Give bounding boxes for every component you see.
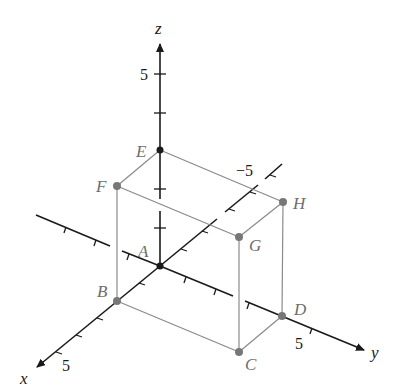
edge-HD xyxy=(282,202,283,316)
edge-CD xyxy=(239,316,282,352)
negative-x-axis: −5 xyxy=(160,162,282,266)
diagram-canvas: −5 5 z 5 y xyxy=(0,0,394,390)
edge-FG xyxy=(117,186,239,237)
point-H xyxy=(279,198,287,206)
edge-GH xyxy=(239,202,283,237)
coordinate-box-diagram: −5 5 z 5 y xyxy=(0,0,394,390)
y-axis: 5 y xyxy=(160,266,379,362)
edge-BC xyxy=(117,301,239,352)
neg-tick-label-minus-5: −5 xyxy=(236,162,253,179)
x-axis-label: x xyxy=(19,369,28,388)
x-tick-label-5: 5 xyxy=(62,357,70,374)
y-tick-label-5: 5 xyxy=(295,335,303,352)
label-G: G xyxy=(249,236,261,255)
point-B xyxy=(113,297,121,305)
point-F xyxy=(113,182,121,190)
label-C: C xyxy=(245,355,257,374)
label-E: E xyxy=(135,142,147,161)
y-axis-label: y xyxy=(369,343,379,362)
label-A: A xyxy=(137,242,149,261)
point-C xyxy=(235,348,243,356)
z-axis-label: z xyxy=(154,19,162,38)
z-tick-label-5: 5 xyxy=(140,66,148,83)
point-G xyxy=(235,233,243,241)
label-D: D xyxy=(293,300,307,319)
edge-HE xyxy=(160,150,283,202)
point-E xyxy=(157,147,164,154)
x-axis: 5 x xyxy=(19,266,160,388)
label-F: F xyxy=(95,177,107,196)
point-D xyxy=(278,312,286,320)
label-H: H xyxy=(292,194,307,213)
label-B: B xyxy=(97,282,108,301)
point-A xyxy=(157,263,164,270)
